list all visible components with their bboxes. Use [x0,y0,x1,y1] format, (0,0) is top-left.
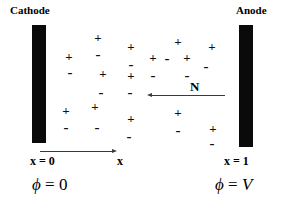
equals-left: = [45,175,55,194]
positive-charge-symbol: + [174,35,181,48]
negative-charge-symbol: - [210,137,215,150]
negative-charge-symbol: - [165,52,170,65]
x-axis-line [40,151,112,152]
negative-charge-symbol: - [96,48,101,61]
negative-charge-symbol: - [176,124,181,137]
positive-charge-symbol: + [62,104,69,117]
positive-charge-symbol: + [65,50,72,63]
phi-symbol-right: ϕ [215,175,224,194]
negative-charge-symbol: - [64,121,69,134]
positive-charge-symbol: + [127,112,134,125]
equals-right: = [228,175,238,194]
x-origin-label: x = 0 [30,155,55,168]
cathode-label: Cathode [10,4,50,16]
electrochemical-cell-figure: Cathode Anode +++++-+-+-+-+-----++++----… [0,0,284,207]
negative-charge-symbol: - [95,121,100,134]
positive-charge-symbol: + [99,67,106,80]
negative-charge-symbol: - [151,69,156,82]
x-axis-variable-label: x [117,155,123,168]
positive-charge-symbol: + [149,51,156,64]
anode-label: Anode [236,4,267,16]
positive-charge-symbol: + [127,69,134,82]
negative-charge-symbol: - [99,86,104,99]
flux-arrowhead-icon [147,93,152,97]
flux-arrow-line [152,95,225,96]
phi-symbol-left: ϕ [32,175,41,194]
positive-charge-symbol: + [91,100,98,113]
positive-charge-symbol: + [127,40,134,53]
positive-charge-symbol: + [94,31,101,44]
positive-charge-symbol: + [183,51,190,64]
positive-charge-symbol: + [174,106,181,119]
anode-potential-label: ϕ = V [215,175,252,194]
cathode-electrode-bar [32,25,46,143]
potential-value-left: 0 [59,175,68,194]
flux-label: N [190,80,199,94]
positive-charge-symbol: + [208,40,215,53]
negative-charge-symbol: - [185,69,190,82]
negative-charge-symbol: - [127,130,132,143]
negative-charge-symbol: - [204,60,209,73]
cathode-potential-label: ϕ = 0 [32,175,67,194]
negative-charge-symbol: - [128,86,133,99]
potential-value-right: V [242,175,252,194]
positive-charge-symbol: + [209,122,216,135]
anode-electrode-bar [239,25,253,147]
x-axis-arrowhead-icon [112,149,117,153]
x-end-label: x = 1 [224,155,249,168]
negative-charge-symbol: - [68,66,73,79]
